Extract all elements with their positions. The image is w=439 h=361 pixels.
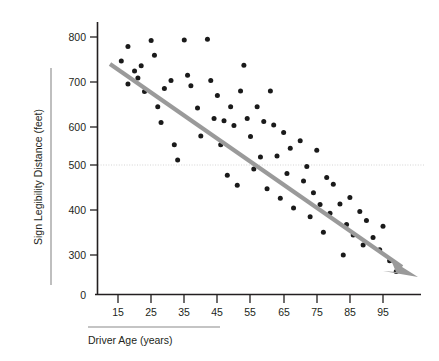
- data-point: [215, 93, 220, 98]
- data-point: [371, 235, 376, 240]
- trend-line: [110, 64, 402, 267]
- data-point: [258, 154, 263, 159]
- x-tick-label-55: 55: [244, 306, 256, 318]
- data-point: [175, 157, 180, 162]
- data-point: [149, 38, 154, 43]
- x-tick-label-85: 85: [344, 306, 356, 318]
- x-tick-label-45: 45: [211, 306, 223, 318]
- data-point: [318, 202, 323, 207]
- data-point: [125, 44, 130, 49]
- data-point: [311, 190, 316, 195]
- data-point: [291, 205, 296, 210]
- data-point: [182, 38, 187, 43]
- data-point: [347, 195, 352, 200]
- data-point: [304, 164, 309, 169]
- y-tick-label-700: 700: [68, 76, 86, 88]
- data-point: [139, 63, 144, 68]
- y-tick-label-300: 300: [68, 249, 86, 261]
- data-point: [321, 230, 326, 235]
- y-axis-title: Sign Legibility Distance (feet): [32, 109, 44, 245]
- y-axis: 800 700 600 500 400 300 0: [68, 22, 97, 301]
- trendline-group: [110, 64, 418, 277]
- data-point: [271, 123, 276, 128]
- data-point: [255, 104, 260, 109]
- data-point: [238, 89, 243, 94]
- data-point: [301, 178, 306, 183]
- data-point: [331, 182, 336, 187]
- x-tick-label-95: 95: [377, 306, 389, 318]
- data-point: [341, 253, 346, 258]
- data-point: [169, 78, 174, 83]
- y-tick-label-500: 500: [68, 159, 86, 171]
- x-tick-label-15: 15: [112, 306, 124, 318]
- y-origin-label: 0: [80, 289, 86, 301]
- data-point: [228, 104, 233, 109]
- x-axis-title: Driver Age (years): [88, 334, 173, 346]
- data-point: [288, 146, 293, 151]
- data-point: [261, 119, 266, 124]
- data-point: [125, 82, 130, 87]
- data-point: [205, 37, 210, 42]
- x-axis-title-group: Driver Age (years): [88, 327, 220, 346]
- data-point: [298, 138, 303, 143]
- data-point: [172, 142, 177, 147]
- data-point: [152, 53, 157, 58]
- data-point: [265, 186, 270, 191]
- x-tick-label-65: 65: [278, 306, 290, 318]
- data-point: [198, 133, 203, 138]
- y-tick-label-800: 800: [68, 31, 86, 43]
- data-point: [241, 63, 246, 68]
- x-tick-label-75: 75: [311, 306, 323, 318]
- data-point: [275, 154, 280, 159]
- data-point: [119, 58, 124, 63]
- data-point: [155, 104, 160, 109]
- data-point: [235, 183, 240, 188]
- data-point: [208, 78, 213, 83]
- y-tick-label-400: 400: [68, 204, 86, 216]
- data-point: [185, 73, 190, 78]
- data-point: [188, 83, 193, 88]
- data-point: [268, 89, 273, 94]
- data-point: [159, 120, 164, 125]
- data-point: [337, 201, 342, 206]
- data-point: [324, 175, 329, 180]
- data-point: [314, 148, 319, 153]
- data-point: [357, 209, 362, 214]
- data-point: [132, 69, 137, 74]
- data-point: [281, 130, 286, 135]
- x-tick-label-25: 25: [145, 306, 157, 318]
- scatter-chart: 800 700 600 500 400 300 0 15 25 35 45 55…: [0, 0, 439, 361]
- y-tick-label-600: 600: [68, 121, 86, 133]
- y-axis-title-group: Sign Legibility Distance (feet): [32, 68, 51, 285]
- data-point: [225, 173, 230, 178]
- data-point: [195, 106, 200, 111]
- data-point: [248, 134, 253, 139]
- data-point: [162, 86, 167, 91]
- data-point: [278, 196, 283, 201]
- chart-canvas: 800 700 600 500 400 300 0 15 25 35 45 55…: [0, 0, 439, 361]
- data-point: [364, 218, 369, 223]
- data-point: [381, 224, 386, 229]
- data-point: [308, 214, 313, 219]
- data-points-layer: [119, 37, 399, 274]
- data-point: [245, 116, 250, 121]
- x-axis: 15 25 35 45 55 65 75 85 95: [95, 295, 421, 319]
- data-point: [284, 171, 289, 176]
- x-tick-label-35: 35: [178, 306, 190, 318]
- data-point: [212, 116, 217, 121]
- data-point: [222, 118, 227, 123]
- data-point: [231, 123, 236, 128]
